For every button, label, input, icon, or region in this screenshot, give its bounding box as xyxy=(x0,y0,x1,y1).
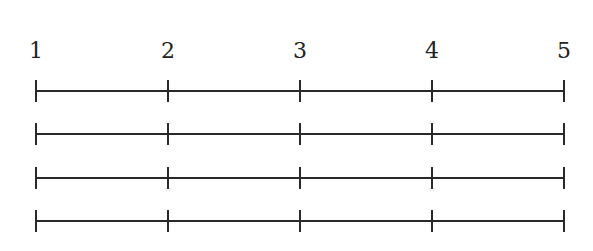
tick-label-5: 5 xyxy=(557,38,571,63)
number-line-row xyxy=(36,80,564,102)
tick-label-3: 3 xyxy=(293,38,307,63)
number-line-row xyxy=(36,210,564,232)
tick-label-4: 4 xyxy=(425,38,439,63)
number-line-rows xyxy=(36,80,564,232)
tick-label-1: 1 xyxy=(29,38,43,63)
tick-label-2: 2 xyxy=(161,38,175,63)
tick-labels: 1 2 3 4 5 xyxy=(29,38,571,63)
number-line-diagram: 1 2 3 4 5 xyxy=(0,0,593,251)
number-line-row xyxy=(36,123,564,145)
number-line-row xyxy=(36,167,564,189)
